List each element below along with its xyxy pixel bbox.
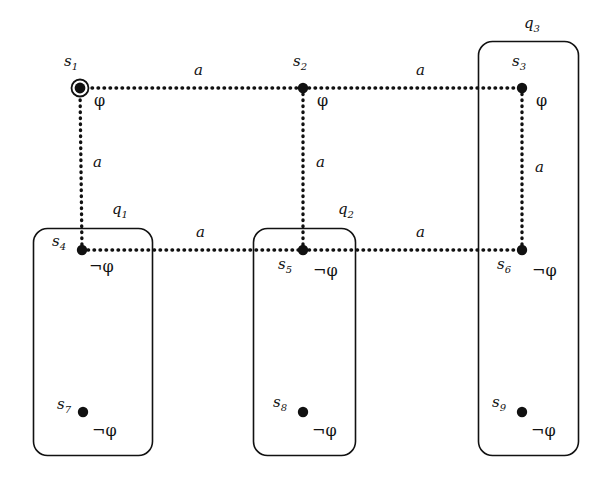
- state-label-s3: s3: [512, 54, 526, 72]
- state-node-s3[interactable]: [517, 83, 527, 93]
- state-label-s1: s1: [64, 54, 78, 72]
- region-label-q1: q1: [112, 202, 128, 220]
- edge-label-e-s3-s6: a: [535, 160, 544, 175]
- state-node-s9[interactable]: [517, 407, 527, 417]
- state-dot-s7[interactable]: [78, 407, 88, 417]
- state-node-s1[interactable]: [72, 80, 89, 97]
- edge-label-e-s2-s3: a: [416, 63, 425, 78]
- state-dot-s6[interactable]: [517, 245, 527, 255]
- state-label-s4: s4: [52, 234, 66, 252]
- state-node-s2[interactable]: [298, 83, 308, 93]
- state-dot-s9[interactable]: [517, 407, 527, 417]
- state-dot-s3[interactable]: [517, 83, 527, 93]
- proposition-label-s5: ¬φ: [313, 263, 338, 279]
- proposition-label-s1: φ: [94, 93, 105, 109]
- state-dot-s4[interactable]: [77, 245, 87, 255]
- proposition-label-s9: ¬φ: [531, 423, 556, 439]
- state-dot-s5[interactable]: [298, 245, 308, 255]
- proposition-label-s4: ¬φ: [89, 259, 114, 275]
- proposition-label-s6: ¬φ: [532, 263, 557, 279]
- region-label-q3: q3: [524, 16, 540, 34]
- region-box-q2[interactable]: [254, 229, 356, 456]
- edge-label-e-s4-s5: a: [196, 225, 205, 240]
- state-label-s5: s5: [278, 257, 292, 275]
- edge-e-s1-s4[interactable]: [80, 88, 82, 250]
- edge-label-e-s1-s2: a: [194, 63, 203, 78]
- state-label-s7: s7: [57, 397, 71, 415]
- state-node-s8[interactable]: [298, 407, 308, 417]
- state-label-s9: s9: [492, 395, 506, 413]
- state-node-s6[interactable]: [517, 245, 527, 255]
- state-node-s7[interactable]: [78, 407, 88, 417]
- proposition-label-s3: φ: [536, 93, 547, 109]
- proposition-label-s7: ¬φ: [92, 423, 117, 439]
- state-label-s2: s2: [293, 54, 307, 72]
- state-dot-s2[interactable]: [298, 83, 308, 93]
- edge-label-e-s2-s5: a: [316, 155, 325, 170]
- diagram-canvas: s1φs2φs3φs4¬φs5¬φs6¬φs7¬φs8¬φs9¬φaaaaaaa…: [0, 0, 609, 483]
- proposition-label-s8: ¬φ: [312, 423, 337, 439]
- state-label-s8: s8: [273, 395, 287, 413]
- state-node-s4[interactable]: [77, 245, 87, 255]
- edge-label-e-s5-s6: a: [416, 225, 425, 240]
- region-q2[interactable]: [254, 229, 356, 456]
- state-label-s6: s6: [497, 257, 511, 275]
- edge-label-e-s1-s4: a: [93, 155, 102, 170]
- state-dot-s8[interactable]: [298, 407, 308, 417]
- diagram-graphics: [0, 0, 609, 483]
- state-dot-s1[interactable]: [75, 83, 86, 94]
- state-node-s5[interactable]: [298, 245, 308, 255]
- region-label-q2: q2: [338, 202, 354, 220]
- proposition-label-s2: φ: [317, 93, 328, 109]
